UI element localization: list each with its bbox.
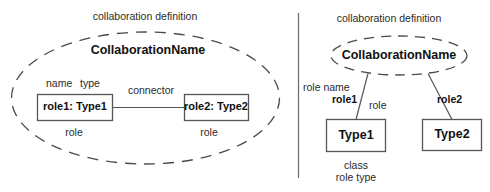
annotation-role-left: role [65,127,83,138]
left-ellipse-label: CollaborationName [91,44,206,57]
right-ellipse-label: CollaborationName [342,49,457,62]
annotation-name: name [46,78,72,89]
type1-label: Type1 [338,129,373,142]
type2-label: Type2 [434,128,469,141]
annotation-role-right: role [200,127,218,138]
diagram-canvas [0,0,490,192]
annotation-role: role [369,100,387,111]
role1-edge-label: role1 [332,94,357,105]
collaboration-diagram: collaboration definition CollaborationNa… [0,0,490,192]
annotation-role-name: role name [303,82,350,93]
role2-edge-label: role2 [437,94,462,105]
right-panel-title: collaboration definition [337,13,442,24]
annotation-class: class [344,160,368,171]
annotation-type: type [80,78,100,89]
role1-edge-line [356,74,368,120]
annotation-role-type: role type [336,172,376,183]
left-panel-title: collaboration definition [93,11,198,22]
role2-type2-label: role2: Type2 [184,101,248,112]
role1-type1-label: role1: Type1 [43,101,107,112]
annotation-connector: connector [128,85,174,96]
